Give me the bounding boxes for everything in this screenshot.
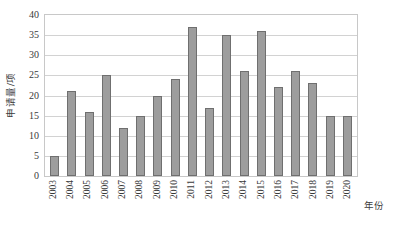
x-tick-slot: 2010 <box>166 178 183 222</box>
bar[interactable] <box>257 31 266 176</box>
x-axis-tick-label: 2020 <box>343 180 353 199</box>
x-axis-tick-labels: 2003200420052006200720082009201020112012… <box>44 178 358 222</box>
x-tick-slot: 2011 <box>184 178 201 222</box>
x-tick-slot: 2014 <box>236 178 253 222</box>
bar[interactable] <box>102 75 111 176</box>
bar[interactable] <box>291 71 300 176</box>
y-axis-tick-label: 40 <box>29 10 39 20</box>
y-axis-tick-label: 30 <box>29 50 39 60</box>
bar-slot <box>218 15 235 176</box>
bar[interactable] <box>119 128 128 176</box>
x-axis-tick-label: 2003 <box>49 180 59 199</box>
x-axis-tick-label: 2016 <box>274 180 284 199</box>
bar[interactable] <box>343 116 352 176</box>
bar[interactable] <box>153 96 162 177</box>
x-axis-tick-label: 2015 <box>257 180 267 199</box>
bar-slot <box>98 15 115 176</box>
bar[interactable] <box>222 35 231 176</box>
bar[interactable] <box>274 87 283 176</box>
plot-area <box>44 14 358 177</box>
bar[interactable] <box>188 27 197 176</box>
bar-slot <box>339 15 356 176</box>
bar-slot <box>287 15 304 176</box>
bar[interactable] <box>171 79 180 176</box>
y-axis-tick-labels: 0510152025303540 <box>18 14 42 177</box>
x-tick-slot: 2019 <box>322 178 339 222</box>
y-axis-tick-label: 15 <box>29 111 39 121</box>
bar[interactable] <box>240 71 249 176</box>
bar-slot <box>46 15 63 176</box>
bar-slot <box>235 15 252 176</box>
x-tick-slot: 2008 <box>132 178 149 222</box>
bar[interactable] <box>50 156 59 176</box>
bar-slot <box>201 15 218 176</box>
bar-slot <box>184 15 201 176</box>
bar-slot <box>132 15 149 176</box>
y-axis-tick-label: 10 <box>29 131 39 141</box>
x-axis-tick-label: 2019 <box>326 180 336 199</box>
x-axis-tick-label: 2013 <box>222 180 232 199</box>
x-tick-slot: 2018 <box>305 178 322 222</box>
bar[interactable] <box>67 91 76 176</box>
bar-slot <box>322 15 339 176</box>
x-axis-tick-label: 2006 <box>101 180 111 199</box>
bar-slot <box>253 15 270 176</box>
y-axis-title: 申请量/项 <box>2 0 18 190</box>
x-tick-slot: 2007 <box>114 178 131 222</box>
y-axis-tick-label: 5 <box>34 151 39 161</box>
x-axis-tick-label: 2011 <box>188 180 198 199</box>
x-axis-tick-label: 2004 <box>66 180 76 199</box>
x-axis-tick-label: 2014 <box>240 180 250 199</box>
y-axis-title-label: 申请量/项 <box>3 72 17 118</box>
x-tick-slot: 2015 <box>253 178 270 222</box>
bar-slot <box>63 15 80 176</box>
bar[interactable] <box>205 108 214 176</box>
bar-slot <box>80 15 97 176</box>
y-axis-tick-label: 20 <box>29 91 39 101</box>
x-tick-slot: 2013 <box>218 178 235 222</box>
x-axis-tick-label: 2009 <box>153 180 163 199</box>
bar-slot <box>270 15 287 176</box>
x-tick-slot: 2012 <box>201 178 218 222</box>
bar[interactable] <box>308 83 317 176</box>
x-tick-slot: 2004 <box>62 178 79 222</box>
bars-container <box>45 15 357 176</box>
y-axis-tick-label: 0 <box>34 171 39 181</box>
x-axis-tick-label: 2010 <box>170 180 180 199</box>
x-tick-slot: 2009 <box>149 178 166 222</box>
bar-slot <box>304 15 321 176</box>
x-axis-tick-label: 2008 <box>136 180 146 199</box>
y-axis-tick-label: 35 <box>29 30 39 40</box>
x-tick-slot: 2020 <box>340 178 357 222</box>
bar-chart: 申请量/项 0510152025303540 20032004200520062… <box>0 0 403 235</box>
y-axis-tick-label: 25 <box>29 70 39 80</box>
x-axis-tick-label: 2017 <box>292 180 302 199</box>
bar[interactable] <box>136 116 145 176</box>
x-axis-title: 年份 <box>364 198 384 212</box>
x-tick-slot: 2003 <box>45 178 62 222</box>
x-tick-slot: 2006 <box>97 178 114 222</box>
x-axis-tick-label: 2007 <box>118 180 128 199</box>
x-axis-tick-label: 2018 <box>309 180 319 199</box>
bar[interactable] <box>85 112 94 176</box>
x-axis-tick-label: 2005 <box>84 180 94 199</box>
bar-slot <box>167 15 184 176</box>
bar-slot <box>115 15 132 176</box>
x-tick-slot: 2005 <box>80 178 97 222</box>
x-axis-tick-label: 2012 <box>205 180 215 199</box>
x-tick-slot: 2017 <box>288 178 305 222</box>
x-tick-slot: 2016 <box>270 178 287 222</box>
bar[interactable] <box>326 116 335 176</box>
bar-slot <box>149 15 166 176</box>
